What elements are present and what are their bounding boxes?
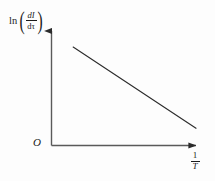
- y-axis-label-numerator: dI: [26, 11, 35, 20]
- origin-label: O: [33, 136, 41, 148]
- y-axis-label-function: ln: [9, 16, 17, 27]
- x-axis-label: 1 T: [191, 151, 199, 172]
- x-axis-label-fraction: 1 T: [191, 151, 200, 172]
- y-axis-label-fraction: dI dτ: [26, 11, 37, 31]
- y-axis-label: ln ( dI dτ ): [9, 11, 44, 31]
- x-axis-label-denominator: T: [191, 162, 198, 171]
- x-axis-label-numerator: 1: [192, 151, 199, 160]
- y-axis-label-denominator: dτ: [26, 22, 36, 31]
- data-line-series-0: [73, 47, 196, 128]
- arrhenius-plot-figure: ln ( dI dτ ) 1 T O: [0, 0, 215, 181]
